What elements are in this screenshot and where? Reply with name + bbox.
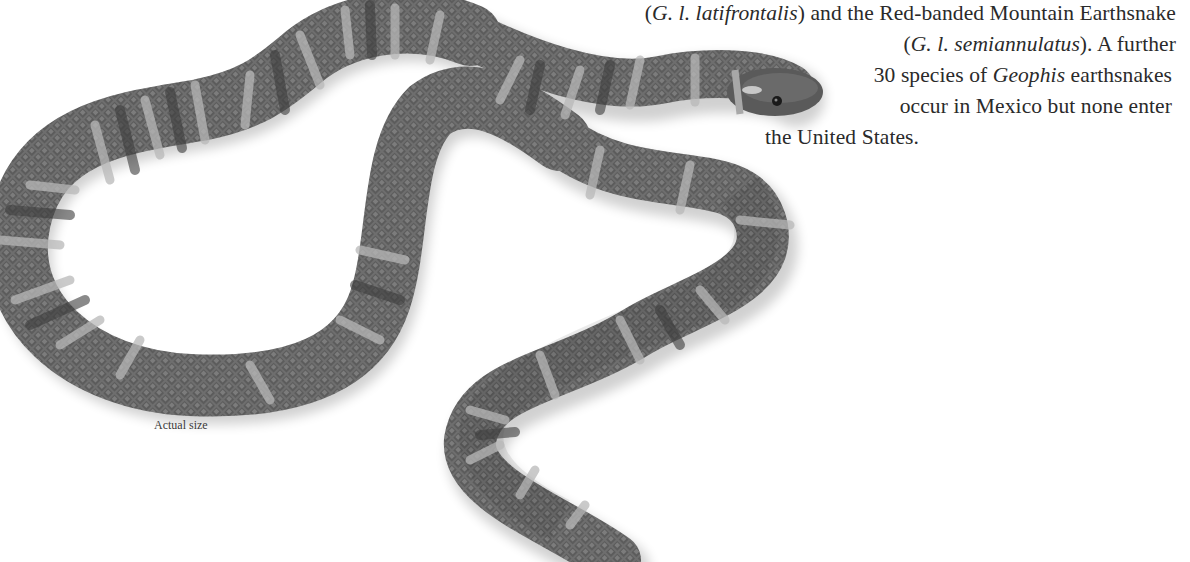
book-page: (G. l. latifrontalis) and the Red-banded…: [0, 0, 1190, 562]
text-line-1: (G. l. latifrontalis) and the Red-banded…: [456, 0, 1176, 29]
text-line-3: 30 species of Geophis earthsnakes: [456, 60, 1172, 91]
text-line-4: occur in Mexico but none enter: [456, 91, 1172, 122]
figure-caption: Actual size: [154, 418, 208, 433]
text-line-2: (G. l. semiannulatus). A further: [456, 29, 1176, 60]
text-line-5: the United States.: [765, 122, 1165, 153]
body-paragraph: (G. l. latifrontalis) and the Red-banded…: [456, 0, 1176, 153]
